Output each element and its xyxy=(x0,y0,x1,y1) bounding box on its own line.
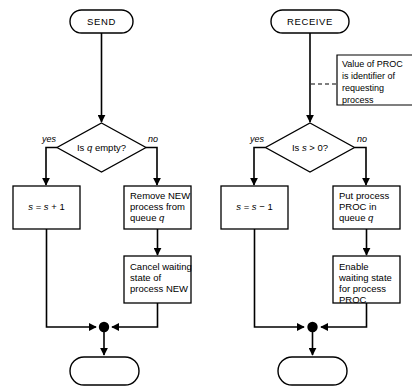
right-no-box-2-line3: for process xyxy=(339,283,386,294)
right-no-box-2-label: Enablewaiting statefor processPROC xyxy=(339,261,399,305)
left-no-box-1-line2: process from xyxy=(130,201,185,212)
left-decision-label: Is q empty? xyxy=(62,142,141,153)
left-edge-yes-to-junction xyxy=(47,229,97,327)
right-junction-dot xyxy=(307,322,317,332)
right-branch-yes-label: yes xyxy=(250,134,264,145)
left-edge-no xyxy=(146,148,157,186)
right-no-box-2-line1: Enable xyxy=(339,261,369,272)
right-start-terminal-label: RECEIVE xyxy=(271,16,349,27)
left-no-box-2-line2: state of xyxy=(130,272,161,283)
right-branch-no-label: no xyxy=(357,134,367,145)
right-annotation-line3: requesting xyxy=(342,83,384,93)
right-edge-no-to-junction xyxy=(321,303,367,327)
right-no-box-1-line1: Put process xyxy=(339,190,389,201)
left-edge-no-to-junction xyxy=(112,303,158,327)
left-no-box-1-label: Remove NEWprocess fromqueue q xyxy=(130,190,190,223)
left-branch-no-label: no xyxy=(148,134,158,145)
right-no-box-1-label: Put processPROC inqueue q xyxy=(339,190,399,223)
left-no-box-2-line3: process NEW xyxy=(130,283,188,294)
flowchart-canvas: SEND Is q empty? yes no s = s + 1 Remove… xyxy=(0,0,412,391)
left-no-box-2-line1: Cancel waiting xyxy=(130,261,192,272)
left-edge-yes xyxy=(46,148,57,186)
right-annotation-line2: is identifier of xyxy=(342,71,395,81)
left-start-terminal-label: SEND xyxy=(70,16,133,27)
left-branch-yes-label: yes xyxy=(42,134,56,145)
left-no-box-2-label: Cancel waitingstate ofprocess NEW xyxy=(130,261,190,294)
right-annotation-line4: process xyxy=(342,95,374,105)
right-annotation-label: Value of PROCis identifier ofrequestingp… xyxy=(342,58,412,106)
right-no-box-2-line4: PROC xyxy=(339,294,366,305)
left-no-box-1-line1: Remove NEW xyxy=(130,190,190,201)
right-edge-yes-to-junction xyxy=(255,229,305,327)
right-edge-no xyxy=(355,148,367,186)
right-yes-box-label: s = s − 1 xyxy=(221,201,288,212)
right-decision-label: Is s > 0? xyxy=(275,142,345,153)
left-end-terminal-shape xyxy=(70,357,139,385)
right-annotation-line1: Value of PROC xyxy=(342,59,403,69)
right-no-box-1-line2: PROC in xyxy=(339,201,376,212)
left-yes-box-label: s = s + 1 xyxy=(13,201,80,212)
right-end-terminal-shape xyxy=(278,357,347,385)
right-edge-yes xyxy=(254,148,266,186)
right-no-box-2-line2: waiting state xyxy=(339,272,392,283)
left-junction-dot xyxy=(99,322,109,332)
